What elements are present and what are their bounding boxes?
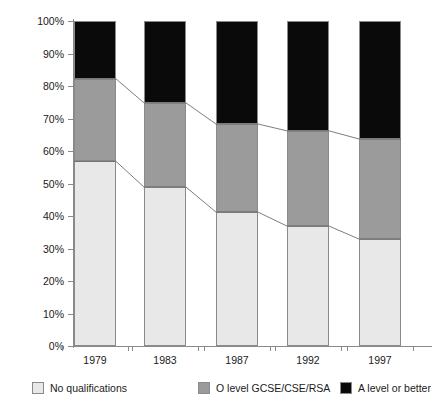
legend-item[interactable]: O level GCSE/CSE/RSA (198, 382, 330, 394)
y-axis-tick-label: 70% (43, 114, 64, 125)
y-axis-tick-label: 80% (43, 81, 64, 92)
legend-swatch-icon (32, 382, 44, 394)
legend-label: O level GCSE/CSE/RSA (216, 383, 330, 394)
y-axis-tick-label: 30% (43, 244, 64, 255)
legend-label: A level or better (358, 383, 431, 394)
bar-segment[interactable] (216, 21, 258, 124)
legend-item[interactable]: No qualifications (32, 382, 127, 394)
bar-segment[interactable] (144, 21, 186, 103)
x-axis-tick-label: 1987 (207, 355, 267, 366)
legend-swatch-icon (340, 382, 352, 394)
y-axis-tick-label: 20% (43, 276, 64, 287)
y-axis-tick-label: 100% (37, 16, 64, 27)
bar-segment[interactable] (74, 161, 116, 346)
y-axis-tick-label: 40% (43, 211, 64, 222)
x-axis-tick (198, 346, 199, 351)
x-axis-tick (128, 346, 129, 351)
bar-segment[interactable] (287, 226, 329, 346)
x-axis-tick-label: 1979 (65, 355, 125, 366)
y-axis-tick-label: 10% (43, 309, 64, 320)
chart-page: 0%10%20%30%40%50%60%70%80%90%100% 197919… (0, 0, 446, 419)
bar-segment[interactable] (144, 103, 186, 187)
y-axis-tick-label: 90% (43, 49, 64, 60)
bar-segment[interactable] (359, 239, 401, 346)
x-axis-tick (275, 346, 276, 351)
x-axis-tick (204, 346, 205, 351)
bar-segment[interactable] (216, 124, 258, 212)
x-axis-tick (413, 346, 414, 351)
y-axis-tick-label: 50% (43, 179, 64, 190)
x-axis-tick-label: 1997 (350, 355, 410, 366)
x-axis-tick (62, 346, 63, 351)
x-axis-tick (341, 346, 342, 351)
bar-segment[interactable] (287, 21, 329, 131)
bar-segment[interactable] (359, 139, 401, 239)
y-axis-tick-label: 60% (43, 146, 64, 157)
bar-segment[interactable] (287, 131, 329, 226)
bar-segment[interactable] (144, 187, 186, 346)
x-axis-tick (132, 346, 133, 351)
legend-item[interactable]: A level or better (340, 382, 431, 394)
bar-segment[interactable] (359, 21, 401, 139)
bar-segment[interactable] (74, 79, 116, 162)
x-axis-tick-label: 1983 (135, 355, 195, 366)
bar-segment[interactable] (74, 21, 116, 79)
bar-1987[interactable] (216, 21, 258, 346)
x-axis-tick-label: 1992 (278, 355, 338, 366)
x-axis-tick (270, 346, 271, 351)
x-axis-line (73, 346, 432, 347)
chart-legend: No qualificationsO level GCSE/CSE/RSAA l… (0, 382, 446, 406)
y-axis-tick (68, 346, 74, 347)
bar-1997[interactable] (359, 21, 401, 346)
x-axis-tick (347, 346, 348, 351)
legend-label: No qualifications (50, 383, 127, 394)
legend-swatch-icon (198, 382, 210, 394)
bar-1992[interactable] (287, 21, 329, 346)
bar-1983[interactable] (144, 21, 186, 346)
plot-area (74, 21, 431, 346)
bar-1979[interactable] (74, 21, 116, 346)
bar-segment[interactable] (216, 212, 258, 346)
